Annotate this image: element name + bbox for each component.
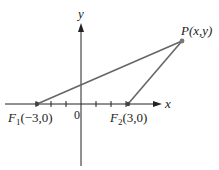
f1-coords: (−3,0) <box>20 110 52 125</box>
point-p <box>180 39 185 44</box>
f2-coords: (3,0) <box>122 110 147 125</box>
point-f1 <box>35 102 39 106</box>
y-axis-arrow-icon <box>78 23 84 32</box>
p-name: P <box>180 23 189 38</box>
label-f1: F1(−3,0) <box>7 110 53 127</box>
origin-label: 0 <box>74 108 80 122</box>
x-axis-arrow-icon <box>153 101 162 107</box>
label-f2: F2(3,0) <box>109 110 147 127</box>
segment-f1-p <box>37 41 182 104</box>
p-coords: (x,y) <box>189 23 212 38</box>
x-axis-label: x <box>164 96 171 111</box>
point-f2 <box>126 102 130 106</box>
segment-f2-p <box>128 41 182 104</box>
label-p: P(x,y) <box>180 23 212 38</box>
foci-diagram: x y 0 F1(−3,0) F2(3,0) P(x,y) <box>0 0 219 170</box>
y-axis-label: y <box>76 6 84 21</box>
